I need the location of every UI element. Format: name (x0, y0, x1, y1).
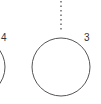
diagram-canvas: 4 3 (0, 0, 101, 104)
node-3-circle (32, 38, 90, 96)
node-4-label: 4 (1, 32, 7, 43)
node-3-label: 3 (84, 32, 90, 43)
node-4-circle (0, 38, 5, 96)
